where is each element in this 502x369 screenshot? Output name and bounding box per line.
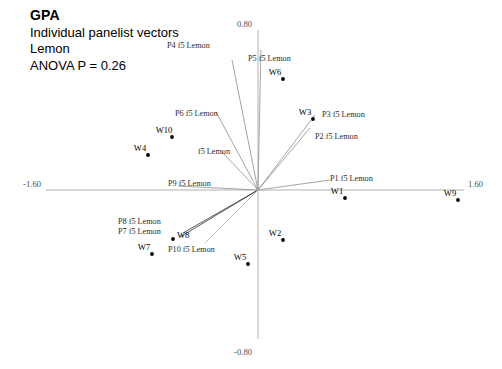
- panelist-vector-label: P2 f5 Lemon: [315, 132, 358, 141]
- attribute-point-dot: [150, 252, 154, 256]
- attribute-point-dot: [246, 262, 250, 266]
- attribute-point-dot: [281, 238, 285, 242]
- attribute-point-label: W5: [234, 252, 246, 262]
- panelist-vector-label: P7 f5 Lemon: [118, 227, 161, 236]
- panelist-vector-label: P10 f5 Lemon: [168, 245, 215, 254]
- attribute-point-label: W10: [156, 125, 173, 135]
- panelist-vector-label: P3 f5 Lemon: [322, 110, 365, 119]
- vectors-group: P1 f5 LemonP2 f5 LemonP3 f5 LemonP4 f5 L…: [118, 41, 373, 254]
- attribute-point-label: W7: [138, 242, 151, 252]
- panelist-vector-label: P6 f5 Lemon: [175, 109, 218, 118]
- panelist-vector-label: P4 f5 Lemon: [167, 41, 210, 50]
- attribute-point-label: W4: [134, 143, 147, 153]
- attribute-point-label: W3: [299, 107, 311, 117]
- panelist-vector-line: [183, 190, 258, 233]
- attribute-point-dot: [281, 77, 285, 81]
- panelist-vector-line: [221, 151, 258, 190]
- attribute-point-label: W9: [444, 188, 456, 198]
- attribute-point-dot: [170, 135, 174, 139]
- y-axis-max-tick-label: 0.80: [237, 19, 252, 29]
- attribute-point-label: W8: [177, 230, 189, 240]
- x-axis-min-tick-label: -1.60: [23, 179, 41, 189]
- panelist-vector-label: f5 Lemon: [198, 147, 230, 156]
- gpa-plot-page: GPA Individual panelist vectors Lemon AN…: [0, 0, 502, 369]
- gpa-scatter-chart: P1 f5 LemonP2 f5 LemonP3 f5 LemonP4 f5 L…: [0, 0, 502, 369]
- attribute-point-dot: [456, 198, 460, 202]
- attribute-point-label: W6: [269, 67, 282, 77]
- panelist-vector-label: P8 f5 Lemon: [118, 217, 161, 226]
- attribute-point-dot: [343, 196, 347, 200]
- panelist-vector-label: P1 f5 Lemon: [330, 174, 373, 183]
- attribute-point-dot: [171, 237, 175, 241]
- attribute-point-label: W2: [269, 228, 281, 238]
- attribute-point-dot: [311, 117, 315, 121]
- panelist-vector-label: P5 f5 Lemon: [248, 54, 291, 63]
- panelist-vector-line: [258, 180, 330, 190]
- panelist-vector-label: P9 f5 Lemon: [168, 179, 211, 188]
- axis-labels-group: -1.601.600.80-0.80: [23, 19, 483, 357]
- panelist-vector-line: [205, 190, 258, 243]
- attribute-point-label: W1: [331, 186, 343, 196]
- panelist-vector-line: [232, 60, 258, 190]
- panelist-vector-line: [258, 115, 315, 190]
- x-axis-max-tick-label: 1.60: [468, 179, 483, 189]
- y-axis-min-tick-label: -0.80: [234, 347, 252, 357]
- points-group: W1W2W3W4W5W6W7W8W9W10: [134, 67, 460, 266]
- panelist-vector-line: [258, 128, 310, 190]
- attribute-point-dot: [146, 153, 150, 157]
